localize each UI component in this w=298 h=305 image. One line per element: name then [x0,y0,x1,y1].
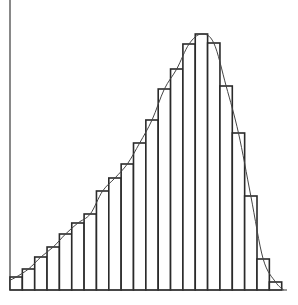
histogram-bar [183,44,195,290]
histogram-bar [96,191,108,290]
histogram-bar [146,120,158,290]
histogram-bar [208,43,220,290]
histogram-bar [59,234,71,290]
histogram-bar [171,69,183,290]
histogram-bars [10,34,282,290]
histogram-bar [47,247,59,290]
histogram-bar [84,214,96,290]
histogram-bar [72,223,84,290]
histogram-bar [195,34,207,290]
histogram-bar [257,259,269,290]
histogram-bar [35,257,47,290]
histogram-chart [0,0,298,305]
histogram-bar [245,196,257,290]
histogram-bar [220,86,232,290]
histogram-bar [158,89,170,290]
histogram-bar [134,143,146,290]
histogram-bar [109,178,121,290]
histogram-bar [121,164,133,290]
histogram-bar [269,282,281,290]
